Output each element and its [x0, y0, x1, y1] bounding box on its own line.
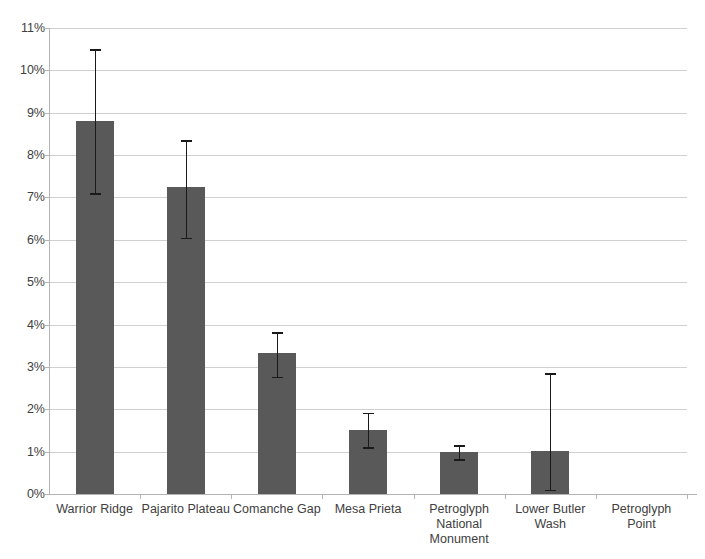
x-tick-mark [231, 494, 232, 499]
gridline-6 [49, 240, 687, 241]
y-tick-mark [44, 70, 49, 71]
y-tick-label: 6% [3, 234, 45, 246]
y-tick-label: 10% [3, 64, 45, 76]
x-tick-mark [596, 494, 597, 499]
y-tick-label: 4% [3, 319, 45, 331]
error-bar-cap-bottom [545, 490, 556, 492]
error-bar-cap-bottom [90, 193, 101, 195]
error-bar-line [550, 373, 551, 490]
gridline-4 [49, 325, 687, 326]
error-bar-cap-bottom [272, 377, 283, 379]
y-tick-mark [44, 197, 49, 198]
y-tick-label: 5% [3, 276, 45, 288]
gridline-10 [49, 70, 687, 71]
x-tick-mark [505, 494, 506, 499]
x-axis-line [49, 494, 697, 495]
y-tick-mark [44, 28, 49, 29]
error-bar-cap-top [272, 332, 283, 334]
x-axis-label: Petroglyph National Monument [414, 502, 505, 547]
y-tick-mark [44, 409, 49, 410]
y-tick-label: 11% [3, 22, 45, 34]
y-axis-line [49, 28, 50, 495]
error-bar-cap-top [90, 49, 101, 51]
error-bar-cap-top [545, 373, 556, 375]
gridline-11 [49, 28, 687, 29]
y-tick-label: 7% [3, 191, 45, 203]
gridline-5 [49, 282, 687, 283]
x-axis-label: Mesa Prieta [322, 502, 413, 517]
x-tick-mark [140, 494, 141, 499]
y-tick-mark [44, 155, 49, 156]
error-bar-line [95, 49, 96, 193]
x-tick-mark [687, 494, 688, 499]
y-tick-mark [44, 494, 49, 495]
gridline-3 [49, 367, 687, 368]
error-bar-line [186, 140, 187, 237]
y-tick-label: 0% [3, 488, 45, 500]
gridline-8 [49, 155, 687, 156]
x-axis-label: Lower Butler Wash [505, 502, 596, 532]
gridline-9 [49, 113, 687, 114]
x-tick-mark [322, 494, 323, 499]
error-bar-cap-top [454, 445, 465, 447]
y-tick-mark [44, 282, 49, 283]
error-bar-line [368, 413, 369, 448]
error-bar-line [459, 445, 460, 459]
y-tick-mark [44, 240, 49, 241]
y-tick-label: 2% [3, 403, 45, 415]
gridline-2 [49, 409, 687, 410]
y-tick-label: 1% [3, 446, 45, 458]
x-tick-mark [414, 494, 415, 499]
x-axis-label: Pajarito Plateau [140, 502, 231, 517]
x-axis-label: Warrior Ridge [49, 502, 140, 517]
error-bar-cap-bottom [454, 459, 465, 461]
error-bar-cap-bottom [181, 238, 192, 240]
y-tick-mark [44, 452, 49, 453]
gridline-7 [49, 197, 687, 198]
y-tick-label: 3% [3, 361, 45, 373]
x-axis-label: Comanche Gap [231, 502, 322, 517]
error-bar-cap-top [181, 140, 192, 142]
x-axis-label: Petroglyph Point [596, 502, 687, 532]
error-bar-line [277, 332, 278, 376]
bar-chart: 11% 10% 9% 8% 7% 6% 5% 4% 3% 2% 1% 0% Wa… [0, 0, 705, 559]
y-tick-label: 9% [3, 107, 45, 119]
y-tick-mark [44, 113, 49, 114]
error-bar-cap-top [363, 413, 374, 415]
y-tick-mark [44, 367, 49, 368]
y-axis-ticks: 11% 10% 9% 8% 7% 6% 5% 4% 3% 2% 1% 0% [0, 0, 45, 559]
y-tick-label: 8% [3, 149, 45, 161]
error-bar-cap-bottom [363, 447, 374, 449]
y-tick-mark [44, 325, 49, 326]
